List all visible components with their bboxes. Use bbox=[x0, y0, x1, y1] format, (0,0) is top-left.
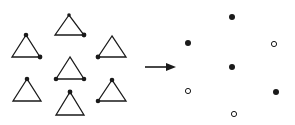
vertex-dot-bl bbox=[96, 99, 101, 104]
filled-point-upper-left bbox=[185, 40, 191, 46]
right-arrow-icon bbox=[145, 63, 176, 71]
point-group bbox=[185, 14, 279, 117]
triangle-outline bbox=[12, 35, 40, 57]
vertex-dot-br bbox=[82, 77, 87, 82]
vertex-dot-apex bbox=[110, 78, 115, 83]
vertex-dot-br bbox=[82, 33, 87, 38]
vertex-dot-br bbox=[38, 55, 43, 60]
triangle-bottom bbox=[56, 90, 84, 115]
vertex-dot-apex bbox=[24, 33, 29, 38]
triangle-top bbox=[55, 13, 86, 37]
triangle-group bbox=[12, 13, 126, 115]
vertex-dot-bl bbox=[96, 55, 101, 60]
triangle-to-points-diagram bbox=[0, 0, 295, 125]
triangle-outline bbox=[56, 57, 84, 79]
open-point-bottom bbox=[231, 111, 236, 116]
filled-point-lower-right bbox=[273, 89, 279, 95]
vertex-dot-apex bbox=[67, 13, 71, 17]
triangle-outline bbox=[98, 80, 126, 101]
vertex-dot-apex bbox=[25, 77, 30, 82]
filled-point-top bbox=[229, 14, 235, 20]
open-point-upper-right bbox=[271, 41, 276, 46]
vertex-dot-apex bbox=[68, 90, 73, 95]
vertex-dot-bl bbox=[54, 77, 59, 82]
triangle-outline bbox=[56, 92, 84, 115]
triangle-lower-left bbox=[13, 77, 41, 101]
triangle-outline bbox=[55, 15, 84, 35]
open-point-lower-left bbox=[185, 88, 190, 93]
triangle-upper-left bbox=[12, 33, 42, 60]
triangle-outline bbox=[13, 79, 41, 101]
arrow-head bbox=[166, 63, 176, 71]
triangle-outline bbox=[98, 36, 126, 57]
triangle-lower-right bbox=[96, 78, 126, 104]
filled-point-center bbox=[229, 64, 235, 70]
triangle-upper-right bbox=[96, 36, 126, 59]
triangle-center bbox=[54, 57, 87, 81]
